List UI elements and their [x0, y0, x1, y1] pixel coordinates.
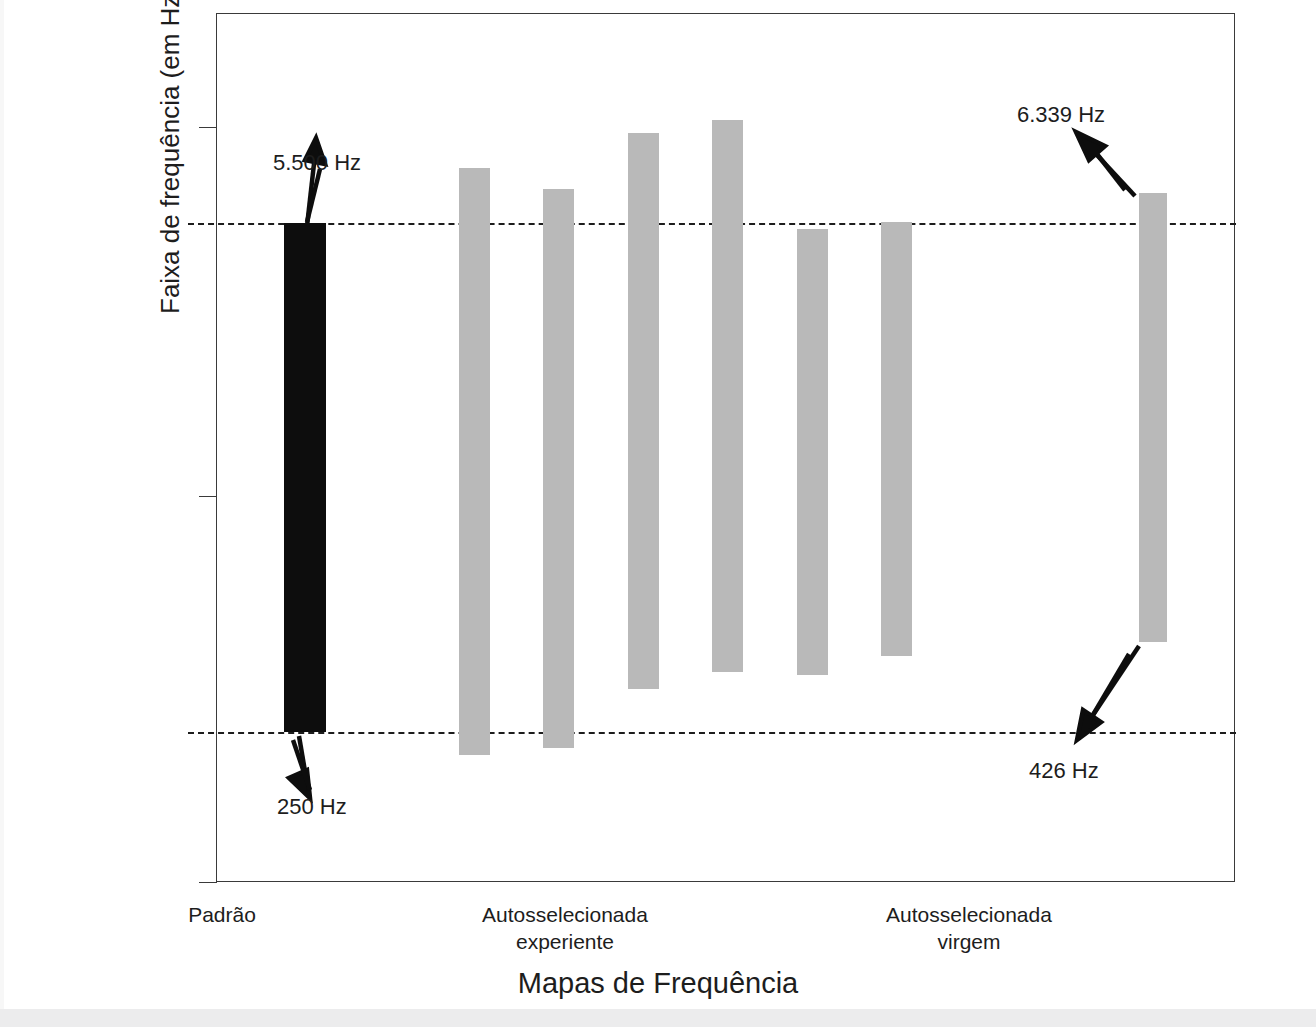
x-category-virgem-line2: virgem: [886, 929, 1052, 956]
x-category-padrao: Padrão: [188, 902, 256, 929]
bar-exp-2: [543, 189, 574, 748]
page-bottom-edge: [0, 1009, 1316, 1027]
annotation-label-5500: 5.500 Hz: [273, 150, 361, 176]
ytick-mark-10000: [199, 127, 217, 128]
bar-virg-3: [1139, 193, 1167, 642]
x-category-padrao-line1: Padrão: [188, 902, 256, 929]
bar-exp-4: [712, 120, 743, 672]
reference-line-lower: [188, 732, 1236, 734]
y-axis-title: Faixa de frequência (em Hz): [155, 0, 186, 314]
bar-exp-1: [459, 168, 490, 755]
chart-page: 10,000 1,000 100 Faixa de frequência (em…: [0, 0, 1316, 1027]
bar-virg-2: [881, 222, 912, 656]
annotation-label-426: 426 Hz: [1029, 758, 1099, 784]
x-category-autosselecionada-virgem: Autosselecionada virgem: [886, 902, 1052, 956]
x-category-experiente-line2: experiente: [482, 929, 648, 956]
x-category-autosselecionada-experiente: Autosselecionada experiente: [482, 902, 648, 956]
annotation-label-6339: 6.339 Hz: [1017, 102, 1105, 128]
x-category-virgem-line1: Autosselecionada: [886, 902, 1052, 929]
x-category-experiente-line1: Autosselecionada: [482, 902, 648, 929]
page-left-edge: [0, 0, 4, 1027]
bar-padrao: [284, 223, 326, 732]
plot-area: 10,000 1,000 100 Faixa de frequência (em…: [216, 13, 1235, 882]
annotation-label-250: 250 Hz: [277, 794, 347, 820]
bar-virg-1: [797, 229, 828, 675]
x-axis-title: Mapas de Frequência: [0, 967, 1316, 1000]
ytick-mark-1000: [199, 496, 217, 497]
bar-exp-3: [628, 133, 659, 689]
ytick-mark-100: [199, 882, 217, 883]
